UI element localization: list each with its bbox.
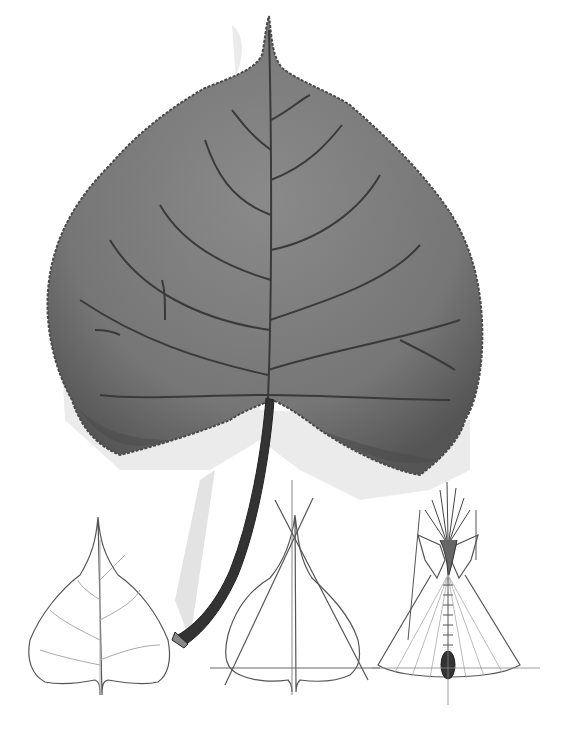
tipi-diagram xyxy=(372,482,540,705)
tipi-lacing-pins xyxy=(443,578,453,650)
outline-leaf-blade xyxy=(29,517,170,695)
illustration-canvas xyxy=(0,0,562,737)
leaf-triangle-diagram xyxy=(210,480,380,695)
large-leaf xyxy=(47,16,482,648)
outline-leaf xyxy=(29,517,170,695)
tipi-poles xyxy=(425,482,470,540)
